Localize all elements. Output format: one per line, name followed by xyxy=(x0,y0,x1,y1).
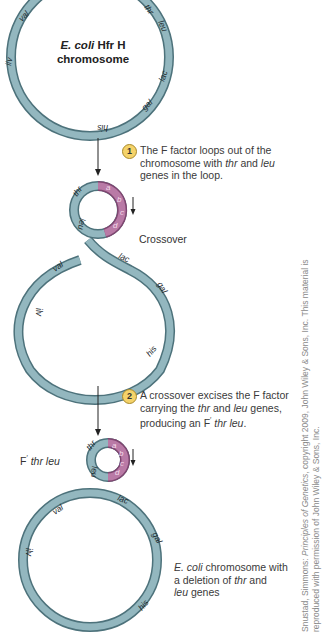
step2-caption: A crossover excises the F factor carryin… xyxy=(140,389,320,429)
deletion-text-b: a deletion of xyxy=(174,574,234,586)
gene-his: his xyxy=(96,123,108,133)
arrow-down-1 xyxy=(95,138,101,176)
gene-ilv: ilv xyxy=(34,308,44,317)
deletion-gene1: thr xyxy=(234,574,246,586)
step1-text-a: The F factor loops out of the xyxy=(140,144,271,156)
step2-text-d: genes, xyxy=(247,402,281,414)
step1-gene2: leu xyxy=(261,157,275,169)
f-prime-genes: thr leu xyxy=(28,455,60,467)
step2-text-f: . xyxy=(243,417,246,429)
title-line2: chromosome xyxy=(57,53,129,65)
step1-text-c: and xyxy=(237,157,260,169)
f-segment-c: c xyxy=(120,208,124,217)
f-segment-d: d xyxy=(115,468,120,477)
gene-leu: leu xyxy=(76,218,88,231)
step1-text-b: chromosome with xyxy=(140,157,225,169)
deletion-text-d: genes xyxy=(188,586,220,598)
step2-gene1: thr xyxy=(198,402,210,414)
deleted-chromosome: val lac gal ilv his xyxy=(23,493,165,627)
gene-leu: leu xyxy=(89,466,100,478)
f-prime-plasmid: thr leu a b c d xyxy=(84,437,136,478)
f-segment-b: b xyxy=(119,449,124,458)
step2-text-e: producing an F xyxy=(140,417,210,429)
crossover-label: Crossover xyxy=(139,233,187,245)
copyright-credit: Snustad, Simmons: Principles of Genetics… xyxy=(300,259,322,632)
hfr-chromosome: val thr leu lac gal his ilv xyxy=(3,0,170,136)
step-badge-2: 2 xyxy=(122,389,137,404)
f-segment-d: d xyxy=(113,221,118,230)
step2-product: thr leu xyxy=(211,417,243,429)
step2-text-a: A crossover excises the F factor xyxy=(140,389,289,401)
f-segment-c: c xyxy=(120,459,124,468)
deletion-text-a: chromosome with xyxy=(203,561,288,573)
credit-authors: Snustad, Simmons: xyxy=(300,556,310,632)
gene-ilv: ilv xyxy=(24,548,34,557)
step1-text-d: genes in the loop. xyxy=(140,169,223,181)
credit-title: Principles of Genetics xyxy=(300,474,310,556)
deletion-text-c: and xyxy=(246,574,266,586)
deletion-caption: E. coli chromosome with a deletion of th… xyxy=(174,561,294,599)
step1-gene1: thr xyxy=(225,157,237,169)
step2-text-b: carrying the xyxy=(140,402,198,414)
f-segment-a: a xyxy=(106,183,111,192)
step2-text-c: and xyxy=(210,402,233,414)
credit-line2: reproduced with permission of John Wiley… xyxy=(311,259,322,632)
step2-gene2: leu xyxy=(233,402,247,414)
step-badge-1: 1 xyxy=(122,144,137,159)
f-prime-label: F′ thr leu xyxy=(20,454,60,467)
arrow-down-2 xyxy=(95,386,101,436)
credit-line1: Snustad, Simmons: Principles of Genetics… xyxy=(300,259,311,632)
step1-caption: The F factor loops out of the chromosome… xyxy=(140,144,320,182)
hfr-title: E. coli Hfr H chromosome xyxy=(48,38,138,66)
deletion-gene2: leu xyxy=(174,586,188,598)
f-segment-a: a xyxy=(112,441,117,450)
figure-eight-chromosome: a b c d thr leu val lac gal ilv his xyxy=(18,183,170,400)
title-strain: Hfr H xyxy=(94,39,125,51)
deletion-species: E. coli xyxy=(174,561,203,573)
credit-rest: , copyright 2009, John Wiley & Sons, Inc… xyxy=(300,259,310,473)
gene-his: his xyxy=(144,343,159,358)
f-segment-b: b xyxy=(117,195,122,204)
title-species: E. coli xyxy=(60,39,94,51)
